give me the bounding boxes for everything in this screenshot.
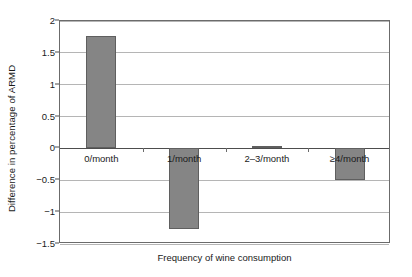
x-axis-category-label: 2–3/month (244, 153, 289, 164)
x-axis-tick-mark (308, 148, 309, 152)
gridline (60, 21, 389, 22)
bar (252, 146, 282, 149)
y-axis-tick-label: 0.5 (42, 110, 55, 121)
chart-figure: Difference in percentage of ARMD 21.510.… (0, 0, 412, 277)
x-axis-category-label: 1/month (167, 153, 201, 164)
y-axis-tick-label: −1 (44, 206, 55, 217)
gridline (60, 212, 389, 213)
x-axis-tick-mark (143, 148, 144, 152)
y-axis-tick-label: −1.5 (36, 238, 55, 249)
x-axis-tick-mark (226, 148, 227, 152)
y-axis-tick-labels: 21.510.50−0.5−1−1.5 (26, 20, 59, 243)
y-axis-title: Difference in percentage of ARMD (0, 0, 22, 277)
plot-area: 0/month1/month2–3/month≥4/month (59, 20, 390, 243)
y-axis-tick-label: 1.5 (42, 46, 55, 57)
bar (86, 36, 116, 148)
x-axis-category-label: ≥4/month (330, 153, 370, 164)
y-axis-tick-label: −0.5 (36, 174, 55, 185)
x-axis-category-label: 0/month (84, 153, 118, 164)
x-axis-title: Frequency of wine consumption (59, 252, 390, 263)
gridline (60, 244, 389, 245)
